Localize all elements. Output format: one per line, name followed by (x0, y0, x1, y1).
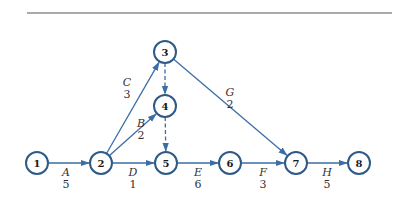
node-label-3: 3 (162, 47, 169, 58)
activity-arrow-b (109, 114, 156, 156)
node-label-8: 8 (356, 158, 363, 169)
activity-duration-c: 3 (124, 88, 131, 101)
activity-duration-e: 6 (195, 178, 202, 191)
activity-duration-d: 1 (130, 178, 137, 191)
node-4: 4 (154, 95, 176, 117)
activity-duration-a: 5 (63, 178, 70, 191)
node-label-7: 7 (293, 158, 300, 169)
edges-group (48, 59, 347, 163)
node-2: 2 (90, 152, 112, 174)
node-7: 7 (285, 152, 307, 174)
dummy-arrow-4-5 (165, 117, 166, 151)
activity-arrow-c (106, 62, 159, 153)
node-3: 3 (154, 41, 176, 63)
node-5: 5 (155, 152, 177, 174)
node-label-2: 2 (98, 158, 105, 169)
node-label-4: 4 (162, 101, 169, 112)
node-6: 6 (219, 152, 241, 174)
activity-duration-g: 2 (227, 98, 234, 111)
activity-duration-h: 5 (324, 178, 331, 191)
nodes-group: 12345678 (26, 41, 370, 174)
node-1: 1 (26, 152, 48, 174)
network-diagram: A5C3B2D1G2E6F3H5 12345678 (0, 0, 395, 203)
node-label-5: 5 (163, 158, 170, 169)
node-8: 8 (348, 152, 370, 174)
node-label-6: 6 (227, 158, 234, 169)
diagram-canvas: A5C3B2D1G2E6F3H5 12345678 (0, 0, 395, 203)
node-label-1: 1 (34, 158, 41, 169)
activity-duration-b: 2 (138, 129, 145, 142)
activity-duration-f: 3 (260, 178, 267, 191)
